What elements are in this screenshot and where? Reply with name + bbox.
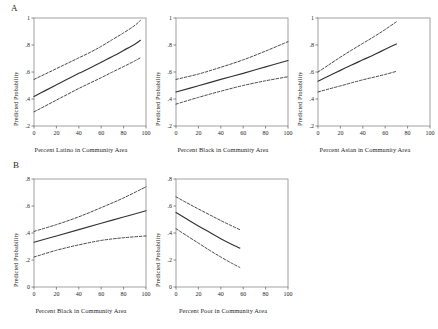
svg-text:20: 20 <box>53 130 59 136</box>
svg-text:1: 1 <box>27 15 30 21</box>
svg-text:100: 100 <box>284 130 293 136</box>
svg-text:.4: .4 <box>26 96 31 102</box>
chart-a1-latino: .2.4.6.81020406080100 <box>10 14 152 144</box>
chart-b2-ylabel: Predicted Probability <box>154 232 161 287</box>
svg-text:0: 0 <box>33 130 36 136</box>
chart-b1-ylabel: Predicted Probability <box>12 232 19 287</box>
svg-text:100: 100 <box>426 130 435 136</box>
chart-a3-asian: .2.4.6.81020406080100 <box>294 14 436 144</box>
svg-text:80: 80 <box>405 130 411 136</box>
svg-text:40: 40 <box>218 130 224 136</box>
svg-text:.4: .4 <box>26 230 31 236</box>
svg-text:.8: .8 <box>310 42 315 48</box>
chart-b2-poor: 0.2.4.6.8020406080100 <box>152 175 294 305</box>
svg-text:40: 40 <box>76 291 82 297</box>
svg-text:40: 40 <box>76 130 82 136</box>
svg-text:20: 20 <box>195 130 201 136</box>
svg-text:0: 0 <box>27 284 30 290</box>
svg-text:.6: .6 <box>168 203 173 209</box>
svg-text:.2: .2 <box>26 257 31 263</box>
chart-a2-xlabel: Percent Black in Community Area <box>152 146 294 153</box>
svg-text:100: 100 <box>142 291 151 297</box>
svg-text:20: 20 <box>195 291 201 297</box>
panel-label-a: A <box>11 3 18 13</box>
svg-text:.4: .4 <box>168 96 173 102</box>
svg-text:.2: .2 <box>168 257 173 263</box>
svg-text:60: 60 <box>98 130 104 136</box>
svg-text:80: 80 <box>121 291 127 297</box>
svg-text:0: 0 <box>175 130 178 136</box>
chart-a2-black: .2.4.6.81020406080100 <box>152 14 294 144</box>
svg-text:100: 100 <box>142 130 151 136</box>
svg-text:.2: .2 <box>26 123 31 129</box>
chart-b1-xlabel: Percent Black in Community Area <box>10 307 152 314</box>
svg-text:.6: .6 <box>310 69 315 75</box>
svg-text:100: 100 <box>284 291 293 297</box>
svg-text:.8: .8 <box>168 42 173 48</box>
svg-text:20: 20 <box>53 291 59 297</box>
svg-text:60: 60 <box>382 130 388 136</box>
svg-text:80: 80 <box>263 291 269 297</box>
svg-text:.8: .8 <box>26 176 31 182</box>
svg-text:.8: .8 <box>26 42 31 48</box>
svg-text:40: 40 <box>218 291 224 297</box>
svg-text:.4: .4 <box>168 230 173 236</box>
svg-text:40: 40 <box>360 130 366 136</box>
chart-a3-xlabel: Percent Asian in Community Area <box>294 146 436 153</box>
svg-text:0: 0 <box>33 291 36 297</box>
svg-text:0: 0 <box>169 284 172 290</box>
svg-text:60: 60 <box>98 291 104 297</box>
svg-text:20: 20 <box>337 130 343 136</box>
svg-text:0: 0 <box>317 130 320 136</box>
svg-text:.6: .6 <box>26 203 31 209</box>
chart-b2-xlabel: Percent Poor in Community Area <box>152 307 294 314</box>
svg-text:1: 1 <box>169 15 172 21</box>
chart-a2-ylabel: Predicted Probability <box>154 71 161 126</box>
svg-text:80: 80 <box>263 130 269 136</box>
svg-text:80: 80 <box>121 130 127 136</box>
svg-text:.6: .6 <box>26 69 31 75</box>
svg-text:0: 0 <box>175 291 178 297</box>
chart-a1-ylabel: Predicted Probability <box>12 71 19 126</box>
chart-a3-ylabel: Predicted Probability <box>296 71 303 126</box>
svg-text:60: 60 <box>240 291 246 297</box>
svg-text:.8: .8 <box>168 176 173 182</box>
svg-text:.6: .6 <box>168 69 173 75</box>
svg-text:.2: .2 <box>310 123 315 129</box>
svg-text:.2: .2 <box>168 123 173 129</box>
figure-panel-group: A B .2.4.6.81020406080100 Predicted Prob… <box>0 0 438 329</box>
svg-text:1: 1 <box>311 15 314 21</box>
chart-b1-black: 0.2.4.6.8020406080100 <box>10 175 152 305</box>
panel-label-b: B <box>13 160 19 170</box>
svg-text:.4: .4 <box>310 96 315 102</box>
chart-a1-xlabel: Percent Latino in Community Area <box>10 146 152 153</box>
svg-text:60: 60 <box>240 130 246 136</box>
